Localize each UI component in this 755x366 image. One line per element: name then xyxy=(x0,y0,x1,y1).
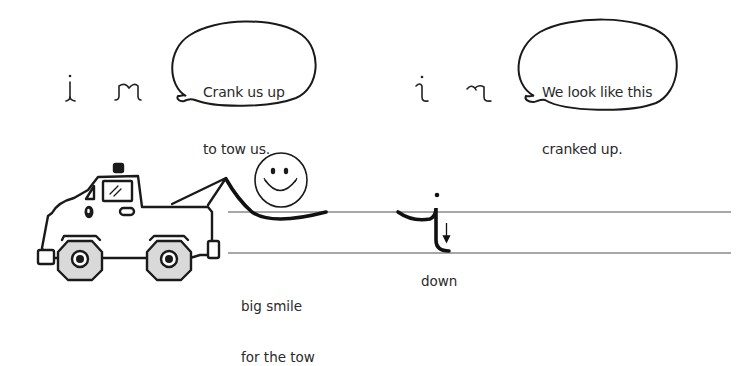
uncranked-i-glyph xyxy=(66,75,75,101)
cranked-i-glyph xyxy=(416,76,428,101)
bubble-1-line-1: Crank us up xyxy=(203,83,285,102)
speech-bubble-2-text: We look like this cranked up. xyxy=(542,45,652,178)
cranked-m-glyph xyxy=(467,86,491,101)
bubble-1-line-2: to tow us. xyxy=(203,140,285,159)
big-smile-stroke xyxy=(226,179,326,219)
tow-truck-icon xyxy=(38,164,226,280)
front-wheel xyxy=(58,241,102,280)
uncranked-m-glyph xyxy=(115,84,141,100)
down-arrow-icon xyxy=(444,223,450,242)
big-smile-caption-line-2: for the tow xyxy=(241,349,315,366)
bubble-2-line-2: cranked up. xyxy=(542,140,652,159)
cranked-i-stroke xyxy=(398,193,449,251)
bubble-2-line-1: We look like this xyxy=(542,83,652,102)
big-smile-caption: big smile for the tow xyxy=(241,264,315,366)
rear-wheel xyxy=(147,241,191,280)
down-caption: down xyxy=(421,273,457,290)
big-smile-caption-line-1: big smile xyxy=(241,298,315,315)
speech-bubble-1-text: Crank us up to tow us. xyxy=(203,45,285,178)
